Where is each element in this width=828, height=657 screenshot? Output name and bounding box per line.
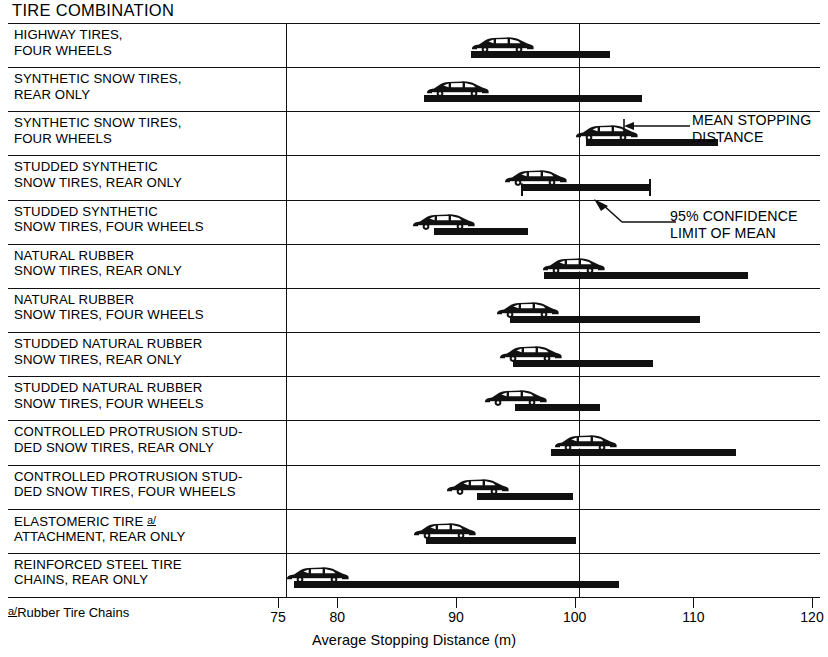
axis-tick-label: 75 [270,609,286,625]
reference-line-100 [579,23,580,597]
car-mean-marker [552,432,618,453]
plot-area [286,23,820,597]
axis-title: Average Stopping Distance (m) [8,632,820,648]
row-label: NATURAL RUBBER SNOW TIRES, REAR ONLY [14,248,286,279]
axis-tick-label: 90 [448,609,464,625]
axis-tick [278,597,279,608]
mean-leader-line [620,118,696,134]
row-label: REINFORCED STEEL TIRE CHAINS, REAR ONLY [14,557,286,588]
row-label: NATURAL RUBBER SNOW TIRES, FOUR WHEELS [14,292,286,323]
axis-tick [693,597,694,608]
row-label: SYNTHETIC SNOW TIRES, REAR ONLY [14,71,286,102]
page-title: TIRE COMBINATION [12,1,174,20]
car-mean-marker [494,299,560,320]
row-label: ELASTOMERIC TIRE a/ ATTACHMENT, REAR ONL… [14,513,286,545]
axis-line [8,597,820,598]
row-label: CONTROLLED PROTRUSION STUD- DED SNOW TIR… [14,424,286,455]
car-mean-marker [469,34,535,55]
car-mean-marker [497,343,563,364]
axis-tick-label: 80 [330,609,346,625]
x-axis: 758090100110120 Average Stopping Distanc… [8,597,820,657]
confidence-limit-cap [649,179,651,196]
axis-tick-label: 120 [800,609,823,625]
car-mean-marker [444,476,510,497]
footnote-marker-inline: a/ [147,514,156,526]
car-mean-marker [284,564,350,585]
row-label: SYNTHETIC SNOW TIRES, FOUR WHEELS [14,115,286,146]
row-label: STUDDED SYNTHETIC SNOW TIRES, REAR ONLY [14,159,286,190]
footnote: a/Rubber Tire Chains [8,605,129,620]
car-mean-marker [482,387,548,408]
car-mean-marker [424,78,490,99]
confidence-leader-line [592,198,678,228]
car-mean-marker [502,167,568,188]
row-label: CONTROLLED PROTRUSION STUD- DED SNOW TIR… [14,469,286,500]
chart-table-area: HIGHWAY TIRES, FOUR WHEELSSYNTHETIC SNOW… [8,23,820,597]
row-label: STUDDED NATURAL RUBBER SNOW TIRES, REAR … [14,336,286,367]
axis-tick [337,597,338,608]
axis-tick-label: 100 [563,609,586,625]
stopping-distance-figure: TIRE COMBINATION HIGHWAY TIRES, FOUR WHE… [0,0,828,657]
annotation-confidence-limit: 95% CONFIDENCE LIMIT OF MEAN [670,208,798,241]
footnote-marker: a/ [8,605,17,617]
car-mean-marker [540,255,606,276]
row-label: STUDDED SYNTHETIC SNOW TIRES, FOUR WHEEL… [14,204,286,235]
car-mean-marker [411,520,477,541]
footnote-text: Rubber Tire Chains [17,605,129,620]
axis-tick [456,597,457,608]
row-label: STUDDED NATURAL RUBBER SNOW TIRES, FOUR … [14,380,286,411]
annotation-mean-stopping-distance: MEAN STOPPING DISTANCE [692,112,811,145]
axis-tick-label: 110 [682,609,704,625]
car-mean-marker [410,211,476,232]
axis-tick [575,597,576,608]
axis-tick [812,597,813,608]
row-label: HIGHWAY TIRES, FOUR WHEELS [14,27,286,58]
